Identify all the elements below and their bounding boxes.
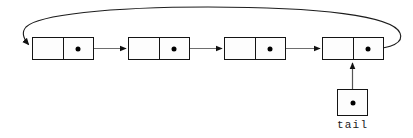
node-pointer-cell: [354, 38, 383, 59]
pointer-dot-icon: [366, 46, 371, 51]
tail-pointer-box: [337, 89, 368, 116]
pointer-dot-icon: [76, 46, 81, 51]
list-node: [322, 37, 384, 60]
linked-list-diagram: tail: [0, 0, 413, 138]
pointer-dot-icon: [350, 100, 355, 105]
node-pointer-cell: [64, 38, 93, 59]
node-data-cell: [225, 38, 256, 59]
node-pointer-cell: [256, 38, 285, 59]
diagram-canvas: [0, 0, 413, 138]
pointer-dot-icon: [268, 46, 273, 51]
node-data-cell: [323, 38, 354, 59]
node-pointer-cell: [160, 38, 189, 59]
list-node: [224, 37, 286, 60]
list-node: [128, 37, 190, 60]
node-data-cell: [129, 38, 160, 59]
tail-pointer-label: tail: [337, 119, 368, 131]
pointer-dot-icon: [172, 46, 177, 51]
node-data-cell: [33, 38, 64, 59]
list-node: [32, 37, 94, 60]
